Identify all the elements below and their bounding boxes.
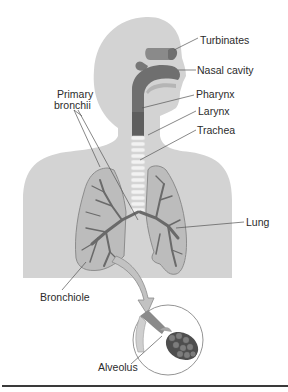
alveolus-inset [131, 305, 203, 375]
label-turbinates: Turbinates [200, 34, 249, 46]
larynx-shape [132, 112, 144, 136]
label-primary-bronchii-line2: bronchii [54, 99, 91, 111]
label-pharynx: Pharynx [196, 88, 235, 100]
label-alveolus: Alveolus [98, 361, 138, 373]
label-larynx: Larynx [198, 105, 230, 117]
respiratory-diagram [0, 0, 288, 392]
label-lung: Lung [246, 216, 269, 228]
body-silhouette [23, 17, 232, 278]
label-bronchiole: Bronchiole [40, 291, 90, 303]
label-nasal-cavity: Nasal cavity [197, 64, 254, 76]
label-trachea: Trachea [197, 124, 235, 136]
bottom-rule [2, 385, 288, 387]
